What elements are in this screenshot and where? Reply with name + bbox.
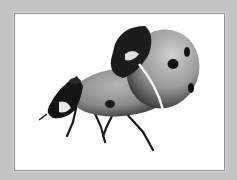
photo-frame (14, 13, 225, 171)
ladybugs-photo (15, 14, 224, 170)
